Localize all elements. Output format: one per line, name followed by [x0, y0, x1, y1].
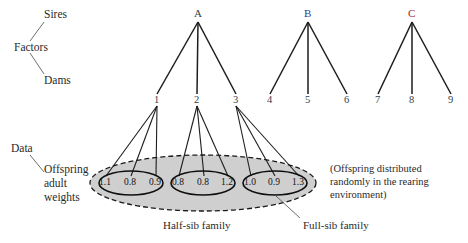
pedigree-diagram: Sires Factors Dams Data Offspring adult …: [0, 0, 468, 243]
leader-factors-dams: [30, 53, 44, 74]
offspring-weight-7: 1.0: [244, 177, 256, 188]
offspring-weight-4: 0.8: [172, 177, 184, 188]
label-offspring-line2: adult: [44, 177, 67, 190]
label-factors: Factors: [14, 41, 48, 54]
note-line-2: randomly in the rearing: [330, 176, 429, 189]
dam-node-2[interactable]: 2: [194, 94, 199, 106]
offspring-weight-5: 0.8: [197, 177, 209, 188]
sire-c-edges: [378, 22, 451, 94]
label-offspring-line1: Offspring: [44, 163, 89, 176]
dam-node-4[interactable]: 4: [267, 94, 272, 106]
dam-node-6[interactable]: 6: [344, 94, 349, 106]
note-line-1: (Offspring distributed: [330, 163, 422, 176]
label-sires: Sires: [44, 8, 67, 21]
note-line-3: environment): [330, 189, 387, 202]
dam-node-5[interactable]: 5: [305, 94, 310, 106]
dam-node-8[interactable]: 8: [409, 94, 414, 106]
sire-b-edges: [270, 22, 347, 94]
label-data: Data: [11, 142, 33, 155]
caption-half-sib-family: Half-sib family: [163, 219, 231, 231]
leader-sires-factors: [30, 22, 44, 41]
sire-node-a[interactable]: A: [194, 7, 202, 19]
offspring-weight-1: 1.1: [99, 177, 111, 188]
offspring-weight-3: 0.9: [149, 177, 161, 188]
label-dams: Dams: [44, 74, 71, 87]
offspring-weight-2: 0.8: [124, 177, 136, 188]
dam-node-3[interactable]: 3: [233, 94, 238, 106]
caption-full-sib-family: Full-sib family: [303, 219, 369, 231]
sire-node-c[interactable]: C: [408, 7, 415, 19]
offspring-weight-6: 1.2: [221, 177, 233, 188]
sire-a-edges: [157, 22, 236, 94]
dam-node-7[interactable]: 7: [375, 94, 380, 106]
pedigree-svg: [0, 0, 468, 243]
dam-node-9[interactable]: 9: [448, 94, 453, 106]
offspring-weight-9: 1.3: [292, 177, 304, 188]
leader-data-offspring: [30, 155, 44, 172]
offspring-weight-8: 0.9: [268, 177, 280, 188]
sire-node-b[interactable]: B: [304, 7, 311, 19]
dam-node-1[interactable]: 1: [154, 94, 159, 106]
label-offspring-line3: weights: [44, 191, 80, 204]
